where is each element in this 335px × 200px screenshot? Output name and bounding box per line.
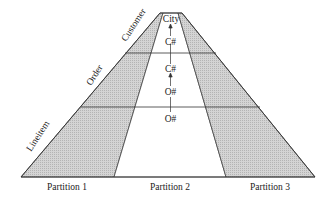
- node-customer-cnum: C#: [165, 37, 176, 47]
- node-order-cnum: C#: [165, 64, 176, 74]
- partition-trapezoid-diagram: City C# C# O# O# Customer Order Lineitem…: [0, 0, 335, 200]
- node-city: City: [163, 14, 180, 24]
- partition-label-3: Partition 3: [250, 182, 290, 192]
- node-order-onum: O#: [165, 87, 177, 97]
- node-lineitem-onum: O#: [165, 114, 177, 124]
- partition-label-1: Partition 1: [47, 182, 87, 192]
- partition-label-2: Partition 2: [150, 182, 190, 192]
